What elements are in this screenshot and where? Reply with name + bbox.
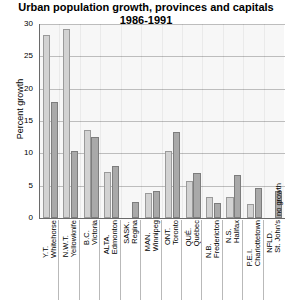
bar-capital-0 (51, 102, 58, 218)
y-tick-label-25: 25 (24, 51, 33, 60)
bar-capital-5 (153, 191, 160, 218)
bar-province-8 (206, 197, 213, 218)
bar-province-5 (145, 193, 152, 218)
x-label-capital-11: St. John's (274, 220, 282, 253)
plot-separator-7 (182, 24, 183, 218)
bar-province-7 (186, 181, 193, 218)
x-label-separator-11 (263, 220, 264, 300)
x-label-separator-9 (222, 220, 223, 300)
x-label-8: N.B.Fredericton (205, 220, 221, 258)
x-axis-labels: Y.T.WhitehorseN.W.T.YellowknifeB.C.Victo… (39, 220, 284, 302)
chart-container: Urban population growth, provinces and c… (0, 0, 292, 302)
bar-capital-8 (214, 203, 221, 218)
x-label-capital-5: Winnipeg (152, 220, 160, 251)
x-label-capital-3: Edmonton (111, 220, 119, 254)
plot-separator-2 (80, 24, 81, 218)
x-label-separator-1 (58, 220, 59, 300)
bar-capital-7 (193, 173, 200, 218)
bar-capital-4 (132, 202, 139, 218)
no-growth-annotation: no growth (274, 183, 283, 216)
x-label-separator-4 (120, 220, 121, 300)
y-tick-label-5: 5 (29, 181, 33, 190)
x-label-0: Y.T.Whitehorse (42, 220, 58, 258)
plot-separator-6 (162, 24, 163, 218)
x-label-2: B.C.Victoria (83, 220, 99, 245)
plot-separator-8 (202, 24, 203, 218)
plot-separator-9 (223, 24, 224, 218)
bar-province-10 (247, 204, 254, 218)
x-label-capital-6: Toronto (172, 220, 180, 245)
x-label-capital-0: Whitehorse (50, 220, 58, 258)
x-label-capital-2: Victoria (91, 220, 99, 245)
bar-province-1 (63, 29, 70, 218)
x-label-4: SASK.Regina (123, 220, 139, 244)
x-label-11: NFLD.St. John's (266, 220, 282, 253)
x-label-6: ONT.Toronto (164, 220, 180, 245)
plot-separator-3 (100, 24, 101, 218)
y-tick-label-10: 10 (24, 148, 33, 157)
y-tick-label-0: 0 (29, 213, 33, 222)
plot-separator-1 (59, 24, 60, 218)
x-label-separator-10 (242, 220, 243, 300)
x-label-capital-9: Halifax (233, 220, 241, 243)
y-tick-label-15: 15 (24, 116, 33, 125)
chart-title-line1: Urban population growth, provinces and c… (18, 1, 273, 13)
plot-separator-4 (121, 24, 122, 218)
y-axis-title: Percent growth (15, 69, 25, 149)
bar-province-2 (84, 130, 91, 218)
bar-province-6 (165, 151, 172, 218)
plot-area: no growth (39, 24, 284, 218)
x-label-separator-2 (79, 220, 80, 300)
x-label-3: ALTA.Edmonton (103, 220, 119, 254)
bar-province-0 (43, 35, 50, 218)
x-label-separator-8 (201, 220, 202, 300)
chart-title-line2: 1986-1991 (0, 14, 292, 27)
bar-capital-6 (173, 132, 180, 218)
chart-title: Urban population growth, provinces and c… (0, 1, 292, 27)
x-label-separator-5 (140, 220, 141, 300)
bar-capital-9 (234, 175, 241, 218)
bar-capital-1 (71, 151, 78, 218)
x-label-1: N.W.T.Yellowknife (62, 220, 78, 257)
x-label-capital-10: Charlottetown (254, 220, 262, 266)
bar-capital-2 (91, 137, 98, 218)
x-label-separator-7 (181, 220, 182, 300)
bar-province-3 (104, 172, 111, 218)
plot-separator-11 (264, 24, 265, 218)
x-label-9: N.S.Halifax (225, 220, 241, 243)
x-label-capital-8: Fredericton (213, 220, 221, 258)
x-label-7: QUÉ.Québec (185, 220, 201, 246)
plot-separator-10 (243, 24, 244, 218)
x-label-5: MAN.Winnipeg (144, 220, 160, 251)
x-axis-line (39, 218, 284, 219)
x-label-capital-4: Regina (131, 220, 139, 244)
bar-capital-10 (255, 188, 262, 218)
bar-province-9 (226, 197, 233, 218)
bar-capital-3 (112, 166, 119, 218)
x-label-capital-7: Québec (193, 220, 201, 246)
plot-separator-5 (141, 24, 142, 218)
x-label-capital-1: Yellowknife (70, 220, 78, 257)
x-label-separator-3 (99, 220, 100, 300)
bar-series-group: no growth (40, 24, 285, 218)
y-tick-label-20: 20 (24, 84, 33, 93)
x-label-10: P.E.I.Charlottetown (246, 220, 262, 266)
x-label-separator-6 (161, 220, 162, 300)
